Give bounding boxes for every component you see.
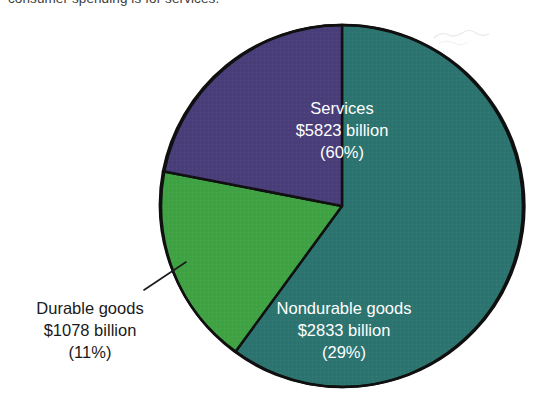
- durable-goods-percent: (11%): [4, 342, 176, 364]
- slice-label-services: Services $5823 billion (60%): [256, 98, 428, 164]
- pie-chart: Services $5823 billion (60%) Nondurable …: [0, 0, 545, 401]
- services-percent: (60%): [256, 142, 428, 164]
- nondurable-goods-percent: (29%): [246, 342, 442, 364]
- durable-goods-name: Durable goods: [4, 298, 176, 320]
- slice-label-durable-goods: Durable goods $1078 billion (11%): [4, 298, 176, 364]
- slice-label-nondurable-goods: Nondurable goods $2833 billion (29%): [246, 298, 442, 364]
- nondurable-goods-value: $2833 billion: [246, 320, 442, 342]
- durable-goods-value: $1078 billion: [4, 320, 176, 342]
- nondurable-goods-name: Nondurable goods: [246, 298, 442, 320]
- services-value: $5823 billion: [256, 120, 428, 142]
- services-name: Services: [256, 98, 428, 120]
